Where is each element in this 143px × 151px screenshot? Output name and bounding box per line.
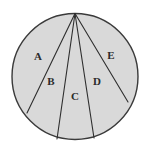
circle-sector-diagram: A B C D E	[0, 0, 143, 151]
figure-container: A B C D E	[0, 0, 143, 151]
region-label-e: E	[107, 49, 114, 61]
region-label-a: A	[34, 50, 42, 62]
region-label-d: D	[93, 75, 101, 87]
region-label-b: B	[47, 75, 55, 87]
circle-outline	[12, 14, 138, 140]
region-label-c: C	[71, 90, 79, 102]
